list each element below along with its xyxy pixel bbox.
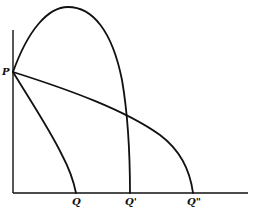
x-label-q-double-prime: Q" [187,197,201,207]
x-label-q: Q [72,197,81,207]
diagram-canvas [0,0,256,212]
x-label-q-prime: Q' [125,197,137,207]
point-p-label: P [2,67,10,77]
curve-p-to-q-double-prime [13,72,193,193]
